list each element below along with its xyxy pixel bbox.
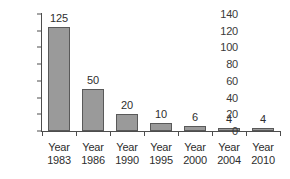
x-axis-category-label-line: 1983 xyxy=(47,154,71,167)
y-axis-tick-mark xyxy=(37,14,41,15)
bar-chart-figure: 020406080100120140125Year198350Year19862… xyxy=(0,0,290,179)
bar-value-label: 4 xyxy=(226,113,232,125)
y-axis-tick-mark xyxy=(37,47,41,48)
x-axis-category-label: Year2010 xyxy=(251,141,275,167)
x-axis-tick-mark xyxy=(76,131,77,136)
y-axis-tick-mark xyxy=(37,80,41,81)
y-axis-tick-mark xyxy=(37,131,41,132)
bar-value-label: 125 xyxy=(50,12,68,24)
bar-value-label: 20 xyxy=(121,99,133,111)
y-axis-tick-label: 100 xyxy=(220,41,238,53)
x-axis-tick-mark xyxy=(144,131,145,136)
x-axis-category-label-line: Year xyxy=(183,141,207,154)
bar-value-label: 50 xyxy=(87,74,99,86)
y-axis-tick-label: 0 xyxy=(232,125,238,137)
x-axis-category-label: Year2000 xyxy=(183,141,207,167)
y-axis-tick-label: 40 xyxy=(226,92,238,104)
bar xyxy=(48,27,70,131)
x-axis-tick-mark xyxy=(178,131,179,136)
x-axis-category-label: Year1995 xyxy=(149,141,173,167)
y-axis-tick-label: 80 xyxy=(226,58,238,70)
x-axis-tick-mark xyxy=(42,131,43,136)
bar xyxy=(116,114,138,131)
x-axis-tick-mark xyxy=(280,131,281,136)
bar-value-label: 6 xyxy=(192,111,198,123)
x-axis-category-label: Year2004 xyxy=(217,141,241,167)
x-axis-tick-mark xyxy=(110,131,111,136)
x-axis-category-label-line: Year xyxy=(149,141,173,154)
x-axis-category-label-line: 2000 xyxy=(183,154,207,167)
y-axis-tick-mark xyxy=(37,97,41,98)
bar xyxy=(184,126,206,131)
x-axis-category-label-line: 2010 xyxy=(251,154,275,167)
bar xyxy=(252,128,274,131)
x-axis-category-label-line: Year xyxy=(251,141,275,154)
bar xyxy=(150,123,172,131)
x-axis-category-label-line: 2004 xyxy=(217,154,241,167)
bar xyxy=(82,89,104,131)
x-axis-category-label-line: Year xyxy=(81,141,105,154)
x-axis-category-label-line: Year xyxy=(47,141,71,154)
x-axis-category-label-line: Year xyxy=(217,141,241,154)
x-axis-category-label: Year1983 xyxy=(47,141,71,167)
y-axis-tick-label: 120 xyxy=(220,25,238,37)
x-axis-line xyxy=(41,131,281,132)
x-axis-category-label-line: 1990 xyxy=(115,154,139,167)
x-axis-category-label-line: 1995 xyxy=(149,154,173,167)
bar-value-label: 4 xyxy=(260,113,266,125)
x-axis-category-label: Year1986 xyxy=(81,141,105,167)
bar-value-label: 10 xyxy=(155,108,167,120)
y-axis-tick-mark xyxy=(37,30,41,31)
y-axis-tick-label: 140 xyxy=(220,8,238,20)
x-axis-tick-mark xyxy=(246,131,247,136)
x-axis-category-label-line: Year xyxy=(115,141,139,154)
x-axis-category-label-line: 1986 xyxy=(81,154,105,167)
y-axis-tick-label: 60 xyxy=(226,75,238,87)
x-axis-tick-mark xyxy=(212,131,213,136)
y-axis-tick-mark xyxy=(37,64,41,65)
y-axis-tick-mark xyxy=(37,114,41,115)
x-axis-category-label: Year1990 xyxy=(115,141,139,167)
